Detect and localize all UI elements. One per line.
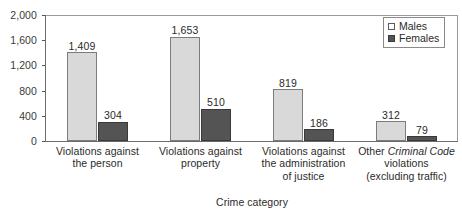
bar-value-label: 1,409 — [69, 41, 96, 52]
y-axis-tick-label: 400 — [19, 111, 37, 122]
bar-males: 1,409 — [67, 52, 97, 141]
bar-females: 510 — [201, 109, 231, 141]
legend-swatch-females-icon — [388, 35, 395, 42]
bar-males: 312 — [376, 121, 406, 141]
bar-males: 1,653 — [170, 37, 200, 141]
x-axis-line — [45, 141, 458, 142]
bar-group: 1,409304 — [46, 15, 149, 141]
bar-value-label: 186 — [310, 118, 328, 129]
x-axis-title: Crime category — [46, 196, 458, 208]
y-axis-tick-label: 2,000 — [10, 10, 37, 21]
legend-label-males: Males — [399, 21, 427, 32]
legend-item-females: Females — [388, 32, 439, 44]
y-axis-tick-label: 1,200 — [10, 60, 37, 71]
legend: Males Females — [383, 17, 445, 48]
legend-swatch-males-icon — [388, 23, 395, 30]
x-axis-category-label: Violations againstproperty — [141, 145, 260, 170]
x-axis-category-label: Violations againstthe person — [38, 145, 157, 170]
bar-value-label: 510 — [207, 97, 225, 108]
bar-males: 819 — [273, 89, 303, 141]
bar-group: 1,653510 — [149, 15, 252, 141]
x-axis-category-label: Violations againstthe administrationof j… — [244, 145, 363, 182]
y-axis-tick-label: 800 — [19, 85, 37, 96]
y-axis-tick-label: 1,600 — [10, 35, 37, 46]
bar-value-label: 1,653 — [172, 25, 199, 36]
legend-label-females: Females — [399, 33, 439, 44]
x-axis-category-label: Other Criminal Codeviolations(excluding … — [347, 145, 462, 182]
bar-females: 79 — [407, 136, 437, 141]
y-axis: 04008001,2001,6002,000 — [0, 10, 40, 140]
y-axis-tick-label: 0 — [31, 136, 37, 147]
bar-females: 304 — [98, 122, 128, 141]
bar-value-label: 312 — [382, 110, 400, 121]
bar-value-label: 819 — [279, 78, 297, 89]
legend-item-males: Males — [388, 20, 439, 32]
bar-females: 186 — [304, 129, 334, 141]
bar-value-label: 79 — [416, 125, 428, 136]
bar-chart: 04008001,2001,6002,000 1,4093041,6535108… — [0, 0, 462, 214]
bar-value-label: 304 — [104, 110, 122, 121]
x-axis-category-labels: Violations againstthe personViolations a… — [46, 145, 458, 193]
bar-group: 819186 — [252, 15, 355, 141]
